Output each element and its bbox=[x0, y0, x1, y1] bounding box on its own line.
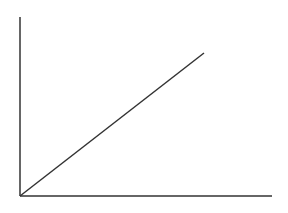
line-diagram bbox=[0, 0, 288, 213]
diagonal-line bbox=[20, 53, 204, 196]
